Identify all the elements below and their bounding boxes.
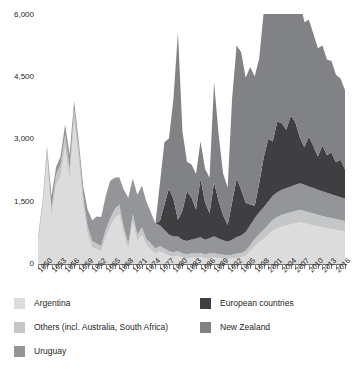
chart-legend: Argentina Others (incl. Australia, South… (14, 298, 344, 368)
y-axis-tick-label: 1,500 (2, 198, 34, 206)
legend-label: Others (incl. Australia, South Africa) (34, 322, 168, 333)
legend-label: Uruguay (34, 346, 66, 357)
legend-label: Argentina (34, 298, 70, 309)
legend-item-new-zealand[interactable]: New Zealand (200, 322, 270, 333)
chart-figure: 6,000 4,500 3,000 1,500 0 19501953195619… (0, 0, 356, 374)
legend-label: New Zealand (220, 322, 270, 333)
y-axis-tick-label: 6,000 (2, 11, 34, 19)
legend-swatch (14, 346, 25, 357)
legend-swatch (14, 322, 25, 333)
stacked-area-series (38, 14, 345, 264)
legend-item-uruguay[interactable]: Uruguay (14, 346, 66, 357)
legend-swatch (200, 322, 211, 333)
legend-swatch (14, 298, 25, 309)
y-axis-tick-label: 4,500 (2, 73, 34, 81)
legend-item-argentina[interactable]: Argentina (14, 298, 70, 309)
legend-swatch (200, 298, 211, 309)
legend-item-others[interactable]: Others (incl. Australia, South Africa) (14, 322, 168, 333)
legend-label: European countries (220, 298, 294, 309)
y-axis-tick-label: 3,000 (2, 135, 34, 143)
plot-area (38, 14, 345, 264)
legend-item-european-countries[interactable]: European countries (200, 298, 294, 309)
